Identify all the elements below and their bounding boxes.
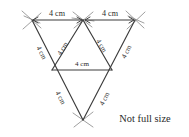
dimension-top-right-span (85, 17, 134, 23)
construction-arcs-group (22, 11, 145, 127)
dimension-top-left-span (33, 17, 82, 23)
edge-labels-group: 4 cm 4 cm 4 cm 4 cm 4 cm 4 cm 4 cm (35, 38, 134, 107)
edge-label-inner-right-side: 4 cm (94, 38, 108, 55)
dimension-label-top-left-span: 4 cm (49, 9, 66, 18)
edge-label-bottom-left-side: 4 cm (54, 90, 68, 107)
not-full-size-caption: Not full size (119, 113, 171, 124)
dimension-labels-group: 4 cm 4 cm (49, 9, 119, 18)
dimension-label-top-right-span: 4 cm (102, 9, 119, 18)
geometry-figure: 4 cm 4 cm 4 cm 4 cm 4 cm 4 cm 4 cm 4 cm … (0, 0, 189, 137)
edge-label-inner-left-side: 4 cm (56, 40, 70, 57)
triangle-edges-group (32, 20, 135, 120)
figure-canvas: 4 cm 4 cm 4 cm 4 cm 4 cm 4 cm 4 cm 4 cm … (0, 0, 189, 137)
edge-label-bottom-right-side: 4 cm (98, 90, 112, 107)
edge-label-middle-horizontal: 4 cm (75, 60, 89, 68)
